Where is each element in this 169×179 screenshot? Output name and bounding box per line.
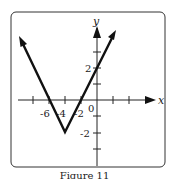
absolute-value-graph: x y 0 -6 -4 -2 2 -2: [0, 0, 169, 179]
x-axis-label: x: [158, 94, 165, 107]
origin-label: 0: [88, 103, 94, 114]
x-axis-arrow-icon: [145, 96, 156, 104]
y-tick-label: -2: [80, 128, 90, 139]
x-axis: [18, 96, 150, 104]
figure-caption: Figure 11: [0, 170, 169, 179]
y-axis-label: y: [92, 15, 100, 28]
x-tick-label: -6: [40, 108, 50, 119]
y-axis: [93, 28, 101, 166]
graph-frame: [11, 12, 165, 167]
y-tick-label: 2: [85, 63, 91, 74]
right-arrow-icon: [108, 30, 116, 40]
left-arrow-icon: [19, 36, 27, 47]
